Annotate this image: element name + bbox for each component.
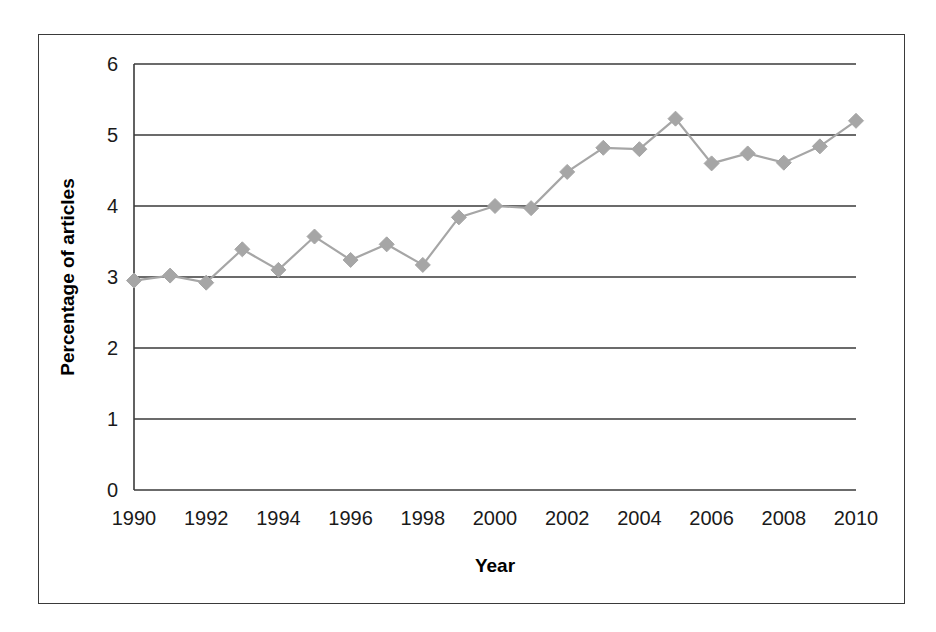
data-point-marker	[596, 140, 611, 155]
y-axis-tick-labels: 0123456	[107, 53, 118, 501]
gridlines-group	[134, 64, 856, 490]
data-point-marker	[163, 268, 178, 283]
line-chart: 0123456 19901992199419961998200020022004…	[0, 0, 936, 632]
x-axis-title: Year	[475, 555, 516, 576]
y-axis-title: Percentage of articles	[57, 178, 78, 375]
data-point-marker	[776, 155, 791, 170]
x-tick-label: 1996	[328, 507, 373, 529]
x-tick-label: 1994	[256, 507, 301, 529]
series-markers-group	[127, 111, 864, 290]
x-tick-label: 1990	[112, 507, 157, 529]
plot-canvas: 0123456 19901992199419961998200020022004…	[0, 0, 936, 632]
x-tick-label: 2008	[762, 507, 807, 529]
data-point-marker	[343, 252, 358, 267]
data-point-marker	[488, 199, 503, 214]
y-tick-label: 4	[107, 195, 118, 217]
y-tick-label: 0	[107, 479, 118, 501]
x-tick-label: 2010	[834, 507, 879, 529]
data-point-marker	[127, 273, 142, 288]
data-point-marker	[379, 237, 394, 252]
data-point-marker	[849, 113, 864, 128]
x-tick-label: 1992	[184, 507, 229, 529]
x-tick-label: 2002	[545, 507, 590, 529]
y-tick-label: 5	[107, 124, 118, 146]
x-tick-label: 1998	[401, 507, 446, 529]
x-axis-tick-labels: 1990199219941996199820002002200420062008…	[112, 507, 879, 529]
x-tick-label: 2006	[689, 507, 734, 529]
y-tick-label: 1	[107, 408, 118, 430]
x-tick-label: 2000	[473, 507, 518, 529]
y-tick-label: 6	[107, 53, 118, 75]
x-tick-label: 2004	[617, 507, 662, 529]
data-point-marker	[740, 146, 755, 161]
data-point-marker	[812, 139, 827, 154]
y-tick-label: 3	[107, 266, 118, 288]
y-tick-label: 2	[107, 337, 118, 359]
